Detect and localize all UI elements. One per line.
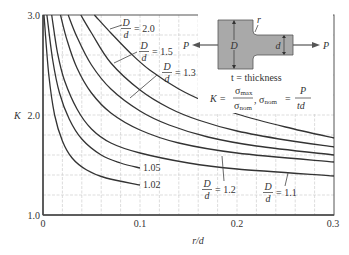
label-dd-1.5: D d = 1.5 — [114, 40, 173, 63]
formula-k: K = — [209, 93, 226, 104]
leader-line — [114, 52, 137, 63]
label-dd-1.02: 1.02 — [143, 179, 161, 190]
leader-line — [130, 75, 157, 98]
x-tick-label: 0 — [41, 218, 46, 229]
formula-td: td — [297, 100, 306, 111]
label-val: = 1.1 — [276, 187, 297, 198]
leader-line — [222, 156, 224, 181]
label-val: = 1.3 — [175, 67, 196, 78]
y-axis-label: K — [13, 110, 22, 121]
equals: = — [285, 93, 291, 104]
arrow-head-left — [192, 42, 200, 48]
label-num: D — [162, 61, 171, 72]
label-num: D — [121, 17, 130, 28]
inset-diagram: P P D d r t = thickness K = σmax σnom , … — [182, 13, 333, 113]
label-num: D — [202, 178, 211, 189]
label-dd-1.2: D d = 1.2 — [202, 156, 236, 201]
y-tick-label: 2.0 — [28, 110, 41, 121]
label-val: = 1.2 — [215, 184, 236, 195]
x-tick-label: 0.1 — [134, 218, 147, 229]
comma: , — [254, 94, 257, 105]
stress-concentration-chart: 3.0 2.0 1.0 0 0.1 0.2 0.3 K r/d D d = 2.… — [0, 0, 349, 255]
leader-line — [110, 25, 122, 29]
label-dd-1.05: 1.05 — [143, 162, 161, 173]
label-dd-2.0: D d = 2.0 — [110, 17, 155, 40]
formula-p: P — [299, 85, 306, 96]
label-den: d — [124, 29, 130, 40]
label-den: d — [142, 52, 148, 63]
series-line-1.02 — [44, 15, 140, 185]
radius-label: r — [257, 14, 261, 25]
label-num: D — [139, 40, 148, 51]
force-label-right: P — [322, 40, 329, 51]
label-val: = 2.0 — [134, 23, 155, 34]
x-tick-label: 0.2 — [231, 218, 244, 229]
x-tick-label: 0.3 — [327, 218, 340, 229]
label-num: D — [263, 181, 272, 192]
x-axis-label: r/d — [192, 235, 205, 246]
y-tick-label: 1.0 — [28, 210, 41, 221]
big-width-label: D — [229, 40, 238, 51]
force-label-left: P — [182, 40, 189, 51]
label-dd-1.1: D d = 1.1 — [263, 173, 297, 204]
label-den: d — [205, 190, 211, 201]
y-tick-label: 3.0 — [28, 10, 41, 21]
label-val: = 1.5 — [152, 46, 173, 57]
thickness-note: t = thickness — [231, 72, 282, 83]
